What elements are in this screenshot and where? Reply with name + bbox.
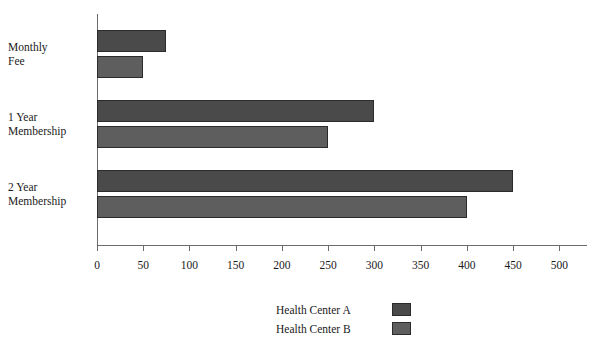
category-label-line: 2 Year xyxy=(8,180,94,194)
bar-chart: . Monthly Fee 1 Year Membership 2 Year M… xyxy=(0,0,616,358)
bar-2-year-membership-health-center-b xyxy=(97,196,467,218)
legend-swatch-icon xyxy=(392,303,411,316)
x-tick-mark xyxy=(513,245,514,251)
category-label-line: Monthly xyxy=(8,40,94,54)
bar-2-year-membership-health-center-a xyxy=(97,170,513,192)
bar-monthly-fee-health-center-a xyxy=(97,30,166,52)
x-tick-label: 350 xyxy=(401,259,441,271)
plot-area: 050100150200250300350400450500 xyxy=(97,14,587,245)
x-tick-label: 500 xyxy=(539,259,579,271)
chart-title-fragment: . xyxy=(0,0,616,5)
x-tick-label: 200 xyxy=(262,259,302,271)
bar-group-1-year-membership xyxy=(97,100,587,148)
x-tick-label: 150 xyxy=(216,259,256,271)
x-tick-label: 0 xyxy=(77,259,117,271)
x-tick-mark xyxy=(189,245,190,251)
legend-swatch-icon xyxy=(392,322,411,335)
x-tick-mark xyxy=(97,245,98,251)
x-tick-mark xyxy=(374,245,375,251)
x-tick-label: 50 xyxy=(123,259,163,271)
legend-label: Health Center A xyxy=(276,304,384,316)
legend-item-health-center-b: Health Center B xyxy=(276,319,426,338)
category-label-line: 1 Year xyxy=(8,110,94,124)
x-tick-label: 250 xyxy=(308,259,348,271)
bar-group-2-year-membership xyxy=(97,170,587,218)
category-label-line: Membership xyxy=(8,194,94,208)
bar-monthly-fee-health-center-b xyxy=(97,56,143,78)
x-tick-label: 400 xyxy=(447,259,487,271)
category-label-line: Fee xyxy=(8,54,94,68)
x-tick-mark xyxy=(143,245,144,251)
x-tick-mark xyxy=(559,245,560,251)
chart-legend: Health Center A Health Center B xyxy=(276,300,426,338)
x-tick-mark xyxy=(467,245,468,251)
category-label-2-year-membership: 2 Year Membership xyxy=(8,180,94,208)
category-label-1-year-membership: 1 Year Membership xyxy=(8,110,94,138)
x-tick-label: 450 xyxy=(493,259,533,271)
x-tick-mark xyxy=(282,245,283,251)
x-tick-label: 100 xyxy=(169,259,209,271)
legend-label: Health Center B xyxy=(276,323,384,335)
bar-1-year-membership-health-center-b xyxy=(97,126,328,148)
x-tick-label: 300 xyxy=(354,259,394,271)
bar-group-monthly-fee xyxy=(97,30,587,78)
x-tick-mark xyxy=(236,245,237,251)
x-tick-mark xyxy=(421,245,422,251)
bar-1-year-membership-health-center-a xyxy=(97,100,374,122)
x-tick-mark xyxy=(328,245,329,251)
category-label-line: Membership xyxy=(8,124,94,138)
legend-item-health-center-a: Health Center A xyxy=(276,300,426,319)
category-label-monthly-fee: Monthly Fee xyxy=(8,40,94,68)
